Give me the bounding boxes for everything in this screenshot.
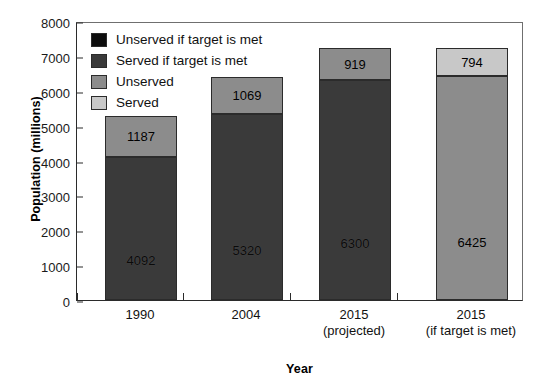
y-tick-label: 6000 — [41, 85, 70, 100]
x-tick-label: 2004 — [232, 307, 261, 323]
x-tick-label-line2: (projected) — [323, 323, 385, 339]
bar-1: 40921187 — [105, 116, 177, 300]
legend-label: Served if target is met — [116, 53, 247, 68]
bar-value-label: 794 — [461, 55, 483, 70]
bar-value-label: 6300 — [341, 236, 370, 251]
x-axis-title: Year — [76, 362, 523, 376]
legend-item-2: Served if target is met — [91, 51, 262, 70]
bar-value-label: 919 — [344, 57, 366, 72]
y-tick-label: 2000 — [41, 225, 70, 240]
legend-label: Unserved if target is met — [116, 32, 262, 47]
bar-4: 6425794 — [436, 48, 508, 300]
legend-label: Unserved — [116, 74, 174, 89]
bar-segment: 794 — [436, 48, 508, 76]
x-tick-label: 1990 — [126, 307, 155, 323]
y-tick-label: 1000 — [41, 260, 70, 275]
x-tick-label-line1: 2015 — [340, 307, 369, 322]
chart-figure: Population (millions) Year 0100020003000… — [0, 0, 539, 388]
bar-segment: 6300 — [319, 80, 391, 300]
y-tick-mark — [77, 197, 83, 198]
y-tick-label: 4000 — [41, 155, 70, 170]
bar-value-label: 6425 — [458, 235, 487, 250]
y-tick-mark — [77, 127, 83, 128]
legend-swatch-icon — [91, 75, 107, 89]
bar-value-label: 1187 — [127, 129, 155, 144]
bar-segment: 5320 — [211, 114, 283, 300]
x-tick-label-line2: (if target is met) — [426, 323, 516, 339]
x-tick-label-line1: 2015 — [457, 307, 486, 322]
x-tick-label-line1: 2004 — [232, 307, 261, 322]
x-tick-label-line1: 1990 — [126, 307, 155, 322]
y-tick-label: 7000 — [41, 50, 70, 65]
legend-item-1: Unserved if target is met — [91, 30, 262, 49]
bar-value-label: 5320 — [233, 243, 262, 258]
bar-segment: 1187 — [105, 116, 177, 157]
legend-swatch-icon — [91, 54, 107, 68]
legend-swatch-icon — [91, 33, 107, 47]
legend-item-4: Served — [91, 93, 262, 112]
x-tick-label: 2015(if target is met) — [426, 307, 516, 339]
legend-item-3: Unserved — [91, 72, 262, 91]
y-tick-mark — [77, 162, 83, 163]
x-tick-label: 2015(projected) — [323, 307, 385, 339]
legend: Unserved if target is metServed if targe… — [91, 30, 262, 114]
y-tick-mark — [77, 267, 83, 268]
bar-segment: 919 — [319, 48, 391, 80]
legend-swatch-icon — [91, 96, 107, 110]
y-tick-mark — [77, 302, 83, 303]
y-tick-mark — [77, 57, 83, 58]
legend-label: Served — [116, 95, 159, 110]
y-tick-label: 8000 — [41, 16, 70, 31]
x-tick-mark — [397, 293, 398, 300]
y-tick-label: 5000 — [41, 120, 70, 135]
plot-area: 010002000300040005000600070008000 409211… — [76, 22, 523, 301]
y-tick-mark — [77, 232, 83, 233]
y-tick-label: 0 — [63, 295, 70, 310]
x-tick-mark — [290, 293, 291, 300]
bar-segment: 6425 — [436, 76, 508, 300]
y-tick-mark — [77, 23, 83, 24]
x-tick-mark — [183, 293, 184, 300]
bar-3: 6300919 — [319, 48, 391, 300]
bar-segment: 4092 — [105, 157, 177, 300]
y-tick-mark — [77, 92, 83, 93]
y-tick-label: 3000 — [41, 190, 70, 205]
x-tick-mark — [77, 293, 78, 300]
bar-value-label: 4092 — [127, 253, 156, 268]
